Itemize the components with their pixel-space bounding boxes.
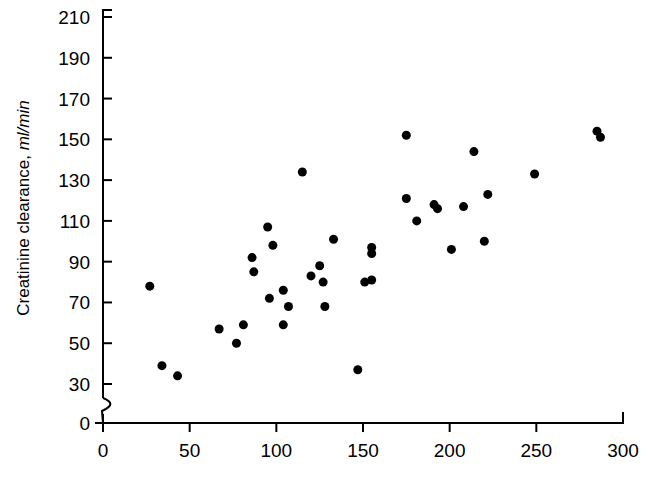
- data-point: [447, 245, 456, 254]
- data-point: [469, 147, 478, 156]
- data-point: [157, 361, 166, 370]
- data-point: [145, 282, 154, 291]
- data-point: [483, 190, 492, 199]
- data-point: [320, 302, 329, 311]
- data-point: [239, 320, 248, 329]
- data-point: [215, 324, 224, 333]
- data-point: [298, 167, 307, 176]
- data-point: [530, 169, 539, 178]
- x-axis-line: [95, 412, 623, 423]
- data-point: [284, 302, 293, 311]
- data-point: [248, 253, 257, 262]
- data-point: [480, 237, 489, 246]
- data-point: [459, 202, 468, 211]
- data-point: [402, 194, 411, 203]
- data-point: [265, 294, 274, 303]
- data-point: [367, 249, 376, 258]
- y-axis-line: [103, 10, 112, 398]
- data-point: [367, 276, 376, 285]
- data-point: [402, 131, 411, 140]
- data-points: [145, 127, 605, 381]
- data-point: [353, 365, 362, 374]
- data-point: [329, 235, 338, 244]
- scatter-plot-figure: Creatinine clearance, ml/min 30507090110…: [0, 0, 648, 491]
- data-point: [307, 271, 316, 280]
- data-point: [596, 133, 605, 142]
- data-point: [279, 286, 288, 295]
- data-point: [433, 204, 442, 213]
- data-point: [268, 241, 277, 250]
- plot-canvas: [0, 0, 648, 491]
- data-point: [315, 261, 324, 270]
- data-point: [279, 320, 288, 329]
- data-point: [319, 278, 328, 287]
- data-point: [412, 216, 421, 225]
- data-point: [173, 371, 182, 380]
- data-point: [249, 267, 258, 276]
- data-point: [232, 339, 241, 348]
- data-point: [263, 223, 272, 232]
